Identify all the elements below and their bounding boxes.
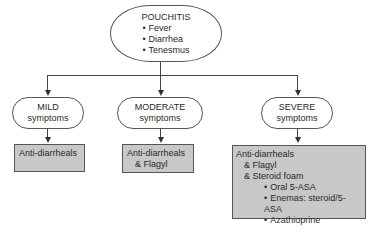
treatment-line: Anti-diarrheals: [236, 149, 361, 160]
arrow-icon: [295, 137, 301, 143]
treatment-line: & Steroid foam: [236, 171, 361, 182]
symptom-list: Fever Diarrhea Tenesmus: [142, 23, 189, 56]
severity-sub: symptoms: [27, 113, 68, 124]
symptom-item: Fever: [142, 23, 189, 34]
mild-drop-line: [47, 75, 48, 91]
severe-treatment-box: Anti-diarrheals & Flagyl & Steroid foam …: [232, 145, 366, 219]
moderate-treatment-box: Anti-diarrheals & Flagyl: [122, 144, 194, 173]
symptom-item: Tenesmus: [142, 45, 189, 56]
arrow-icon: [295, 90, 301, 96]
mild-treatment-box: Anti-diarrheals: [14, 144, 85, 172]
severity-level: MILD: [37, 102, 59, 113]
severe-symptoms-node: SEVERE symptoms: [261, 97, 333, 129]
severity-level: SEVERE: [279, 102, 316, 113]
treatment-line: & Flagyl: [236, 160, 361, 171]
treatment-option: Azathioprine: [236, 215, 361, 226]
symptom-item: Diarrhea: [142, 34, 189, 45]
arrow-icon: [158, 90, 164, 96]
severity-level: MODERATE: [135, 102, 185, 113]
arrow-icon: [45, 137, 51, 143]
pouchitis-node: POUCHITIS Fever Diarrhea Tenesmus: [110, 5, 222, 62]
severity-sub: symptoms: [276, 113, 317, 124]
root-stem-line: [160, 62, 161, 75]
arrow-icon: [45, 90, 51, 96]
mild-symptoms-node: MILD symptoms: [12, 97, 84, 129]
branch-line: [47, 75, 298, 76]
moderate-drop-line: [160, 75, 161, 91]
severe-treatment-options: Oral 5-ASA Enemas: steroid/5-ASA Azathio…: [236, 182, 361, 226]
treatment-line: Anti-diarrheals: [127, 148, 189, 159]
moderate-symptoms-node: MODERATE symptoms: [117, 97, 203, 129]
treatment-line: & Flagyl: [127, 159, 189, 170]
severe-drop-line: [297, 75, 298, 91]
treatment-option: Enemas: steroid/5-ASA: [236, 193, 361, 215]
pouchitis-title: POUCHITIS: [141, 12, 190, 23]
severity-sub: symptoms: [139, 113, 180, 124]
treatment-option: Oral 5-ASA: [236, 182, 361, 193]
arrow-icon: [158, 137, 164, 143]
treatment-line: Anti-diarrheals: [19, 148, 80, 159]
